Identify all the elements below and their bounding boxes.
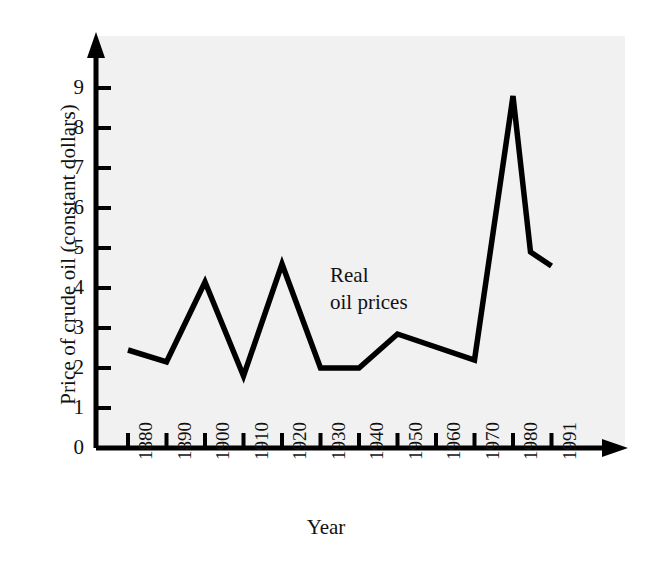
y-tick-label: 3 [58,317,84,338]
x-tick-label: 1920 [290,422,309,460]
x-tick-label: 1940 [367,422,386,460]
x-tick-label: 1970 [483,422,502,460]
y-tick-label: 0 [58,437,84,458]
x-tick-label: 1910 [252,422,271,460]
y-tick-label: 6 [58,197,84,218]
series-annotation-line-2: oil prices [330,289,408,316]
x-tick-label: 1930 [329,422,348,460]
y-tick-label: 1 [58,397,84,418]
x-tick-label: 1950 [406,422,425,460]
chart-canvas [0,0,645,563]
x-tick-label: 1880 [136,422,155,460]
x-axis-label: Year [96,515,556,540]
x-axis-arrowhead [602,439,628,457]
y-tick-label: 2 [58,357,84,378]
x-tick-label: 1960 [444,422,463,460]
axes [87,32,628,457]
series-annotation: Real oil prices [330,262,408,316]
y-tick-label: 9 [58,77,84,98]
y-tick-label: 4 [58,277,84,298]
data-series-line [128,96,552,376]
chart-figure: Price of crude oil (constant dollars) Ye… [0,0,645,563]
x-tick-label: 1980 [521,422,540,460]
x-axis-label-text: Year [307,515,346,539]
y-axis-arrowhead [87,32,105,58]
x-tick-label: 1890 [175,422,194,460]
y-tick-label: 7 [58,157,84,178]
y-tick-label: 8 [58,117,84,138]
x-tick-label: 1991 [560,422,579,460]
series-annotation-line-1: Real [330,262,408,289]
x-tick-label: 1900 [213,422,232,460]
y-tick-label: 5 [58,237,84,258]
